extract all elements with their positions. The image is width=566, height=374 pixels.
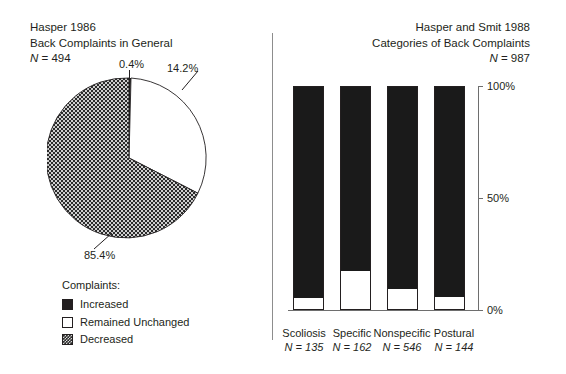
left-title-line2: Back Complaints in General xyxy=(30,36,173,52)
x-label-postural-n: N = 144 xyxy=(422,340,486,354)
pie-label-decreased: 85.4% xyxy=(84,249,115,261)
bar-postural xyxy=(434,86,465,310)
x-label-postural-name: Postural xyxy=(434,327,474,339)
y-tick-100 xyxy=(478,86,483,87)
right-n-value: = 987 xyxy=(498,52,530,64)
bar-segment-increased-scoliosis xyxy=(294,87,323,298)
right-n-symbol: N xyxy=(489,52,497,64)
bar-chart-plot-area xyxy=(288,86,478,310)
left-n-value: = 494 xyxy=(38,52,70,64)
y-tick-label-0: 0% xyxy=(487,304,503,316)
leader-line-04 xyxy=(129,70,130,83)
legend-label-remained-unchanged: Remained Unchanged xyxy=(80,316,189,329)
y-tick-label-100: 100% xyxy=(487,80,515,92)
pie-chart xyxy=(47,76,211,240)
x-label-postural: Postural N = 144 xyxy=(422,326,486,354)
left-sample-size: N = 494 xyxy=(30,51,173,67)
right-panel-title: Hasper and Smit 1988 Categories of Back … xyxy=(372,20,530,67)
pie-svg xyxy=(47,76,211,240)
left-title-line1: Hasper 1986 xyxy=(30,20,173,36)
legend-item-decreased: Decreased xyxy=(62,332,189,347)
figure-canvas: Hasper 1986 Back Complaints in General N… xyxy=(0,0,566,374)
legend-swatch-decreased xyxy=(62,334,73,345)
right-sample-size: N = 987 xyxy=(372,51,530,67)
bar-segment-increased-postural xyxy=(435,87,464,297)
y-tick-label-50: 50% xyxy=(487,192,509,204)
y-tick-0 xyxy=(478,310,483,311)
panel-divider xyxy=(272,33,273,340)
bar-scoliosis xyxy=(293,86,324,310)
legend: Complaints: Increased Remained Unchanged… xyxy=(62,279,189,350)
bar-specific xyxy=(340,86,371,310)
legend-label-increased: Increased xyxy=(80,298,128,311)
y-tick-50 xyxy=(478,198,483,199)
bar-segment-increased-specific xyxy=(341,87,370,271)
right-title-line2: Categories of Back Complaints xyxy=(372,36,530,52)
legend-item-increased: Increased xyxy=(62,297,189,312)
legend-swatch-increased xyxy=(62,299,73,310)
x-axis-line xyxy=(288,310,479,311)
legend-heading: Complaints: xyxy=(62,279,189,291)
legend-label-decreased: Decreased xyxy=(80,333,133,346)
bar-nonspecific xyxy=(387,86,418,310)
bar-segment-increased-nonspecific xyxy=(388,87,417,289)
x-label-scoliosis-name: Scoliosis xyxy=(282,327,325,339)
pie-label-increased: 0.4% xyxy=(119,58,144,70)
pie-label-remained-unchanged: 14.2% xyxy=(167,62,198,74)
legend-swatch-remained-unchanged xyxy=(62,317,73,328)
left-panel-title: Hasper 1986 Back Complaints in General N… xyxy=(30,20,173,67)
right-title-line1: Hasper and Smit 1988 xyxy=(372,20,530,36)
legend-item-remained-unchanged: Remained Unchanged xyxy=(62,315,189,330)
